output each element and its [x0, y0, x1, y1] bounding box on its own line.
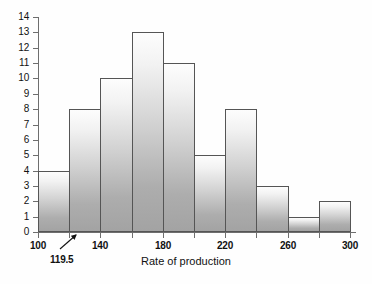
x-tick-240 — [256, 233, 257, 238]
x-tick-label-260: 260 — [268, 240, 308, 251]
x-tick-280 — [319, 233, 320, 238]
y-tick-label-7: 7 — [5, 120, 29, 130]
histogram-bar — [319, 201, 351, 232]
histogram-bar — [69, 109, 101, 232]
histogram-bar — [132, 32, 164, 232]
y-tick-label-14: 14 — [5, 12, 29, 22]
x-tick-300 — [350, 233, 351, 238]
x-tick-label-300: 300 — [330, 240, 370, 251]
x-tick-label-140: 140 — [80, 240, 120, 251]
histogram-bar — [288, 217, 320, 232]
y-tick-label-5: 5 — [5, 150, 29, 160]
histogram-bar — [163, 63, 195, 232]
x-tick-label-220: 220 — [205, 240, 245, 251]
histogram-bar — [225, 109, 257, 232]
plot-area — [38, 17, 350, 232]
y-tick-label-13: 13 — [5, 27, 29, 37]
x-tick-100 — [38, 233, 39, 238]
x-tick-200 — [194, 233, 195, 238]
x-axis-title: Rate of production — [0, 255, 372, 268]
histogram-bar — [194, 155, 226, 232]
x-tick-220 — [225, 233, 226, 238]
x-tick-260 — [288, 233, 289, 238]
y-tick-label-2: 2 — [5, 196, 29, 206]
x-axis-line — [38, 232, 356, 233]
histogram-figure: 01234567891011121314 100140180220260300 … — [0, 0, 372, 284]
y-tick-label-1: 1 — [5, 212, 29, 222]
histogram-bar — [38, 171, 70, 232]
y-tick-label-10: 10 — [5, 73, 29, 83]
histogram-bar — [100, 78, 132, 232]
x-tick-180 — [163, 233, 164, 238]
x-tick-160 — [132, 233, 133, 238]
y-tick-label-3: 3 — [5, 181, 29, 191]
y-tick-label-4: 4 — [5, 166, 29, 176]
y-tick-label-8: 8 — [5, 104, 29, 114]
y-tick-label-6: 6 — [5, 135, 29, 145]
y-tick-label-12: 12 — [5, 43, 29, 53]
y-tick-label-0: 0 — [5, 227, 29, 237]
histogram-bar — [256, 186, 288, 232]
callout-arrow-icon — [54, 232, 82, 252]
y-tick-label-9: 9 — [5, 89, 29, 99]
x-tick-140 — [100, 233, 101, 238]
y-tick-label-11: 11 — [5, 58, 29, 68]
x-tick-label-100: 100 — [18, 240, 58, 251]
x-tick-label-180: 180 — [143, 240, 183, 251]
